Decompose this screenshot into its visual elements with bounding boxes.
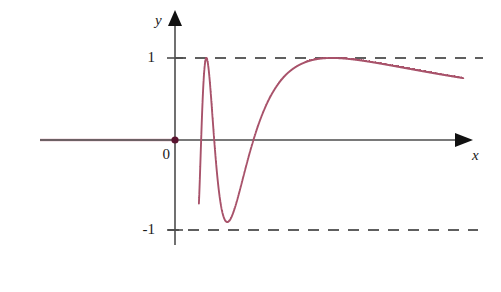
y-axis-arrowhead — [168, 10, 182, 26]
origin-point-marker — [171, 136, 178, 143]
y-tick-label-negative-one: -1 — [126, 222, 155, 237]
x-axis-label: x — [472, 148, 479, 163]
plot-figure: y x 1 0 -1 — [0, 0, 501, 292]
sin-one-over-x-plot — [0, 0, 501, 292]
origin-label-zero: 0 — [156, 147, 170, 162]
y-tick-label-one: 1 — [133, 50, 155, 65]
x-axis-arrowhead — [455, 133, 473, 147]
y-axis-label: y — [155, 13, 162, 28]
